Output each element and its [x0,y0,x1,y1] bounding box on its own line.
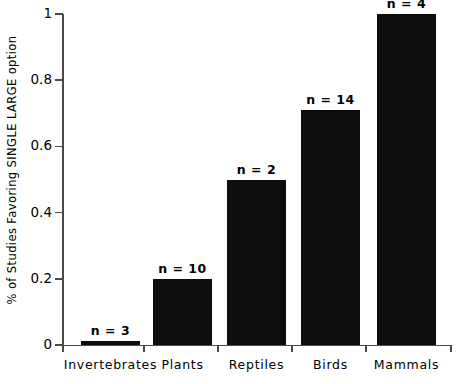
y-axis-tick [55,79,63,81]
x-axis-tick [450,345,452,352]
bar-sample-size-label: n = 2 [214,163,299,177]
y-axis-tick-label: 0.8 [8,73,52,87]
bar [81,341,140,345]
y-axis-tick-label: 0 [8,338,52,352]
bar-sample-size-label: n = 3 [68,324,153,338]
y-axis-tick-label: 0.2 [8,272,52,286]
bar [377,14,436,345]
x-axis-tick [365,345,367,352]
bar [301,110,360,345]
y-axis-title: % of Studies Favoring SINGLE LARGE optio… [2,0,22,340]
x-axis-tick [217,345,219,352]
x-axis-category-label: Mammals [347,357,467,372]
y-axis-tick [55,13,63,15]
y-axis-tick [55,278,63,280]
y-axis-tick-label: 0.4 [8,206,52,220]
y-axis-tick-label: 0.6 [8,139,52,153]
y-axis-tick [55,146,63,148]
x-axis-tick [291,345,293,352]
bar-sample-size-label: n = 4 [364,0,449,11]
bar [227,180,286,346]
bar [153,279,212,345]
bar-chart: % of Studies Favoring SINGLE LARGE optio… [0,0,469,384]
x-axis-tick [62,345,64,352]
bar-sample-size-label: n = 14 [288,93,373,107]
x-axis-tick [143,345,145,352]
y-axis-line [62,14,64,346]
bar-sample-size-label: n = 10 [140,262,225,276]
y-axis-tick [55,212,63,214]
y-axis-tick-label: 1 [8,7,52,21]
